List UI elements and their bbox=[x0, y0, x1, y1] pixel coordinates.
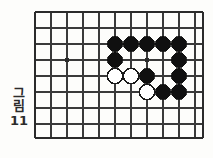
black-stone[interactable] bbox=[139, 36, 154, 51]
black-stone[interactable] bbox=[171, 68, 186, 83]
black-stone[interactable] bbox=[107, 52, 122, 67]
star-point bbox=[145, 58, 149, 62]
black-stone[interactable] bbox=[171, 84, 186, 99]
black-stone[interactable] bbox=[171, 52, 186, 67]
figure-container: 그림 11 bbox=[0, 0, 213, 158]
white-stone[interactable] bbox=[107, 68, 122, 83]
white-stone[interactable] bbox=[123, 68, 138, 83]
black-stone[interactable] bbox=[155, 84, 170, 99]
black-stone[interactable] bbox=[171, 36, 186, 51]
star-point bbox=[65, 58, 69, 62]
black-stone[interactable] bbox=[123, 36, 138, 51]
black-stone[interactable] bbox=[155, 36, 170, 51]
white-stone[interactable] bbox=[139, 84, 154, 99]
black-stone[interactable] bbox=[139, 68, 154, 83]
go-board[interactable] bbox=[0, 0, 213, 158]
go-board-svg bbox=[0, 0, 213, 158]
black-stone[interactable] bbox=[107, 36, 122, 51]
